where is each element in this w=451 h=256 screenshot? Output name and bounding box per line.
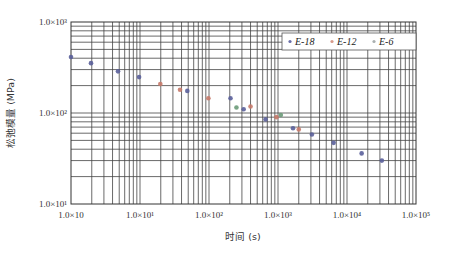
x-tick-label: 1.0×10¹	[126, 210, 154, 220]
data-point	[279, 113, 284, 118]
series-e-18	[69, 55, 384, 163]
data-point	[310, 132, 315, 137]
y-tick-label: 1.0×10²	[39, 108, 67, 118]
data-point	[178, 87, 183, 92]
data-point	[185, 89, 190, 94]
y-axis-title: 松弛模量 (MPa)	[5, 78, 16, 148]
y-tick-label: 1.0×10³	[39, 17, 67, 27]
data-point	[89, 61, 94, 66]
data-point	[228, 96, 233, 101]
data-point	[359, 151, 364, 156]
data-point	[158, 82, 163, 87]
x-tick-label: 1.0×10²	[195, 210, 223, 220]
x-tick-label: 1.0×10⁴	[333, 210, 361, 220]
data-point	[296, 127, 301, 132]
legend-marker-icon	[288, 40, 291, 43]
data-point	[116, 69, 121, 74]
x-tick-label: 1.0×10³	[264, 210, 292, 220]
x-axis-title: 时间 (s)	[225, 231, 260, 242]
data-point	[248, 104, 253, 109]
data-point	[331, 141, 336, 146]
data-point	[234, 105, 239, 110]
legend-marker-icon	[372, 40, 375, 43]
x-tick-label: 1.0×10	[58, 210, 84, 220]
data-point	[241, 107, 246, 112]
data-points	[69, 55, 384, 163]
x-tick-label: 1.0×10⁵	[402, 210, 430, 220]
x-axis-ticks: 1.0×101.0×10¹1.0×10²1.0×10³1.0×10⁴1.0×10…	[58, 210, 430, 220]
data-point	[137, 75, 142, 80]
data-point	[291, 126, 296, 131]
data-point	[69, 55, 74, 60]
data-point	[274, 115, 279, 120]
legend-marker-icon	[330, 40, 333, 43]
y-axis-ticks: 1.0×10¹1.0×10²1.0×10³	[39, 17, 67, 209]
relaxation-modulus-chart: 1.0×10¹1.0×10²1.0×10³ 1.0×101.0×10¹1.0×1…	[0, 0, 451, 256]
legend-label: E-12	[336, 36, 356, 47]
legend-label: E-6	[378, 36, 393, 47]
legend-label: E-18	[294, 36, 314, 47]
data-point	[380, 158, 385, 163]
data-point	[206, 96, 211, 101]
legend: E-18E-12E-6	[282, 33, 416, 50]
y-tick-label: 1.0×10¹	[39, 199, 67, 209]
data-point	[263, 117, 268, 122]
